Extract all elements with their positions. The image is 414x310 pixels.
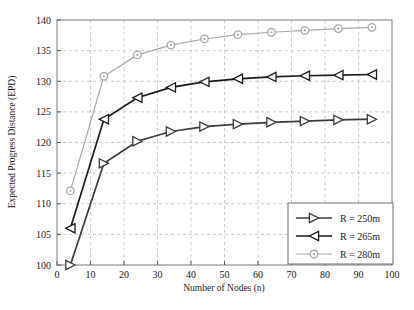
y-tick-label: 125 xyxy=(36,106,51,117)
y-tick-label: 105 xyxy=(36,229,51,240)
data-point-center xyxy=(237,34,239,36)
data-point-center xyxy=(103,75,105,77)
x-tick-label: 30 xyxy=(153,269,163,280)
data-point-center xyxy=(313,253,315,255)
x-tick-label: 10 xyxy=(86,269,96,280)
y-tick-label: 135 xyxy=(36,45,51,56)
x-tick-label: 100 xyxy=(385,269,400,280)
data-point-center xyxy=(136,54,138,56)
y-tick-label: 130 xyxy=(36,76,51,87)
legend-item-label[interactable]: R = 250m xyxy=(340,213,380,224)
x-tick-label: 0 xyxy=(55,269,60,280)
data-point-center xyxy=(337,27,339,29)
legend-item-label[interactable]: R = 280m xyxy=(340,249,380,260)
figure-container: 0102030405060708090100 10010511011512012… xyxy=(0,0,414,310)
y-tick-label: 120 xyxy=(36,137,51,148)
x-axis-label: Number of Nodes (n) xyxy=(183,283,265,294)
y-axis-label: Expected Progress Distance (EPD) xyxy=(7,76,18,209)
legend-item-label[interactable]: R = 265m xyxy=(340,231,380,242)
data-point-center xyxy=(69,190,71,192)
data-point-center xyxy=(270,31,272,33)
y-tick-label: 110 xyxy=(36,198,51,209)
data-point-center xyxy=(304,29,306,31)
x-tick-label: 60 xyxy=(253,269,263,280)
data-point-center xyxy=(203,38,205,40)
x-tick-label: 50 xyxy=(220,269,230,280)
x-tick-label: 40 xyxy=(186,269,196,280)
x-tick-label: 20 xyxy=(119,269,129,280)
y-tick-label: 100 xyxy=(36,260,51,271)
x-tick-label: 70 xyxy=(287,269,297,280)
y-tick-label: 115 xyxy=(36,168,51,179)
data-point-center xyxy=(170,44,172,46)
expected-progress-distance-chart: 0102030405060708090100 10010511011512012… xyxy=(0,0,414,310)
x-tick-label: 90 xyxy=(354,269,364,280)
y-tick-label: 140 xyxy=(36,15,51,26)
chart-legend[interactable]: R = 250mR = 265mR = 280m xyxy=(288,203,393,264)
data-point-center xyxy=(371,26,373,28)
x-tick-label: 80 xyxy=(320,269,330,280)
